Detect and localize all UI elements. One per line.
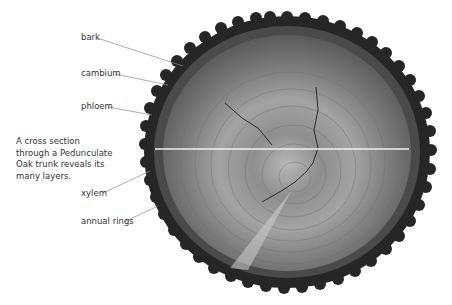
caption: A cross section through a Pedunculate Oa… xyxy=(16,136,126,182)
caption-line: through a Pedunculate xyxy=(16,148,126,160)
label-annual-rings: annual rings xyxy=(81,216,134,226)
xylem xyxy=(163,35,411,271)
caption-line: many layers. xyxy=(16,171,126,183)
label-xylem: xylem xyxy=(81,188,107,198)
label-cambium: cambium xyxy=(81,68,121,78)
caption-line: Oak trunk reveals its xyxy=(16,159,126,171)
label-phloem: phloem xyxy=(81,101,113,111)
label-bark: bark xyxy=(81,32,100,42)
caption-line: A cross section xyxy=(16,136,126,148)
